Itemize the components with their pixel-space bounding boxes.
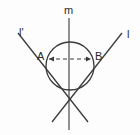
line-l	[52, 33, 122, 122]
label-point-a: A	[37, 51, 44, 62]
label-line-l: l	[127, 29, 129, 40]
label-line-l-prime: l'	[19, 27, 24, 38]
geometry-figure: l' m l A B	[0, 0, 140, 135]
label-point-b: B	[95, 51, 102, 62]
diagram-canvas	[0, 0, 140, 135]
line-l-prime	[18, 33, 88, 122]
label-axis-m: m	[64, 5, 73, 16]
circle	[46, 42, 94, 90]
